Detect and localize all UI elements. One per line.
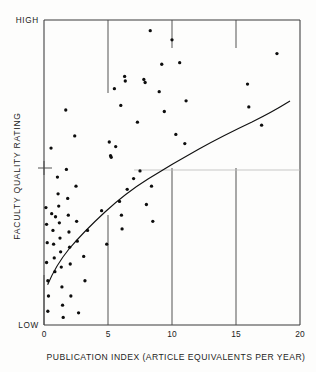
data-point[interactable]: [60, 265, 63, 268]
data-point[interactable]: [59, 250, 62, 253]
data-point[interactable]: [53, 256, 56, 259]
data-point[interactable]: [143, 81, 146, 84]
data-point[interactable]: [174, 133, 177, 136]
data-point[interactable]: [100, 209, 103, 212]
data-point[interactable]: [67, 214, 70, 217]
data-point[interactable]: [61, 304, 64, 307]
data-point-group[interactable]: [44, 29, 278, 319]
data-point[interactable]: [52, 243, 55, 246]
xtick-label-0: 0: [42, 329, 47, 339]
data-point[interactable]: [120, 214, 123, 217]
data-point[interactable]: [62, 316, 65, 319]
data-point[interactable]: [178, 61, 181, 64]
data-point[interactable]: [145, 203, 148, 206]
data-point[interactable]: [56, 192, 59, 195]
data-point[interactable]: [118, 200, 121, 203]
data-point[interactable]: [151, 220, 154, 223]
data-point[interactable]: [46, 241, 49, 244]
data-point[interactable]: [86, 229, 89, 232]
data-point[interactable]: [113, 87, 116, 90]
data-point[interactable]: [74, 185, 77, 188]
data-point[interactable]: [69, 262, 72, 265]
data-point[interactable]: [138, 169, 141, 172]
data-point[interactable]: [183, 142, 186, 145]
data-point[interactable]: [53, 270, 56, 273]
data-point[interactable]: [108, 140, 111, 143]
data-point[interactable]: [114, 145, 117, 148]
data-point[interactable]: [66, 197, 69, 200]
data-point[interactable]: [75, 220, 78, 223]
data-point[interactable]: [67, 230, 70, 233]
data-point[interactable]: [45, 261, 48, 264]
data-point[interactable]: [160, 63, 163, 66]
data-point[interactable]: [51, 229, 54, 232]
data-point[interactable]: [83, 279, 86, 282]
scatter-plot-canvas[interactable]: 0 5 10 15 20 HIGH LOW PUBLICATION INDEX …: [0, 0, 316, 372]
data-point[interactable]: [150, 185, 153, 188]
y-axis-label: FACULTY QUALITY RATING: [12, 112, 22, 240]
data-point[interactable]: [44, 206, 47, 209]
ytick-label-low: LOW: [18, 321, 39, 330]
data-point[interactable]: [54, 215, 57, 218]
data-point[interactable]: [73, 134, 76, 137]
data-point[interactable]: [57, 204, 60, 207]
axis-tick-marks: [38, 20, 236, 325]
data-point[interactable]: [142, 78, 145, 81]
data-point[interactable]: [49, 146, 52, 149]
data-point[interactable]: [149, 29, 152, 32]
ytick-label-high: HIGH: [16, 16, 39, 25]
data-point[interactable]: [64, 108, 67, 111]
xtick-label-20: 20: [295, 329, 305, 339]
data-point[interactable]: [260, 124, 263, 127]
data-point[interactable]: [46, 310, 49, 313]
data-point[interactable]: [46, 279, 49, 282]
data-point[interactable]: [184, 99, 187, 102]
data-point[interactable]: [76, 239, 79, 242]
data-point[interactable]: [58, 221, 61, 224]
x-tick-label-group: 0 5 10 15 20: [42, 329, 305, 339]
data-point[interactable]: [158, 90, 161, 93]
data-point[interactable]: [82, 255, 85, 258]
xtick-label-15: 15: [231, 329, 241, 339]
data-point[interactable]: [105, 243, 108, 246]
data-point[interactable]: [247, 105, 250, 108]
data-point[interactable]: [56, 175, 59, 178]
data-point[interactable]: [47, 294, 50, 297]
data-point[interactable]: [60, 285, 63, 288]
data-point[interactable]: [65, 168, 68, 171]
data-point[interactable]: [110, 156, 113, 159]
data-point[interactable]: [119, 104, 122, 107]
xtick-label-10: 10: [167, 329, 177, 339]
data-point[interactable]: [275, 52, 278, 55]
data-point[interactable]: [58, 236, 61, 239]
data-point[interactable]: [123, 75, 126, 78]
data-point[interactable]: [68, 246, 71, 249]
data-point[interactable]: [124, 79, 127, 82]
chart-figure: 0 5 10 15 20 HIGH LOW PUBLICATION INDEX …: [0, 0, 316, 372]
data-point[interactable]: [45, 223, 48, 226]
data-point[interactable]: [69, 294, 72, 297]
data-point[interactable]: [163, 110, 166, 113]
data-point[interactable]: [120, 227, 123, 230]
data-point[interactable]: [170, 38, 173, 41]
data-point[interactable]: [246, 82, 249, 85]
data-point[interactable]: [132, 177, 135, 180]
data-point[interactable]: [77, 311, 80, 314]
x-axis-label: PUBLICATION INDEX (ARTICLE EQUIVALENTS P…: [47, 352, 306, 362]
data-point[interactable]: [50, 212, 53, 215]
xtick-label-5: 5: [106, 329, 111, 339]
data-point[interactable]: [126, 188, 129, 191]
data-point[interactable]: [136, 121, 139, 124]
